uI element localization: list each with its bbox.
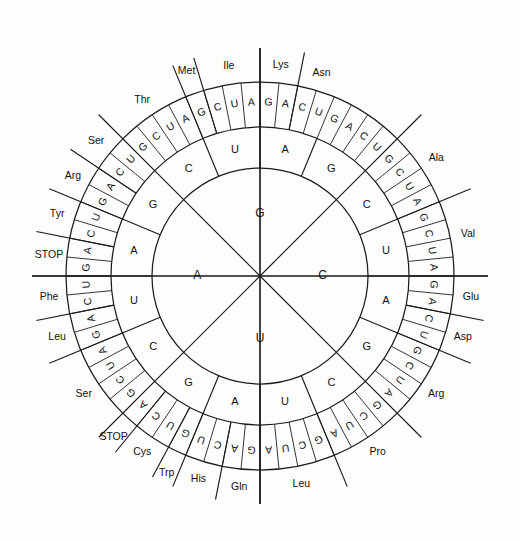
first-base-letter-c-1: C [318, 268, 327, 282]
second-base-letter-u-9: U [130, 294, 138, 306]
amino-acid-label-ile-21: Ile [223, 59, 234, 71]
amino-acid-divider-6 [317, 414, 347, 487]
amino-acid-label-arg-4: Arg [428, 387, 445, 399]
third-base-letter-a-31: A [136, 399, 149, 413]
third-base-letter-c-58: C [297, 100, 308, 114]
amino-acid-label-val-1: Val [461, 227, 475, 239]
third-base-letter-c-30: C [149, 409, 163, 423]
second-base-divider-13 [203, 138, 219, 176]
third-base-letter-u-18: U [343, 419, 356, 433]
third-base-letter-g-36: G [88, 329, 102, 341]
third-base-divider-25 [241, 424, 245, 469]
first-base-divider [184, 276, 260, 352]
third-base-letter-c-17: C [357, 409, 371, 423]
third-base-letter-a-51: A [180, 111, 191, 125]
third-base-letter-u-59: U [313, 105, 324, 119]
third-base-letter-g-28: G [179, 427, 192, 441]
third-base-letter-g-4: G [417, 211, 431, 223]
second-base-letter-u-5: U [281, 395, 289, 407]
second-base-letter-c-0: C [363, 198, 371, 210]
amino-acid-label-trp-9: Trp [159, 466, 175, 478]
third-base-letter-a-23: A [265, 444, 273, 456]
genetic-code-wheel-diagram: GCUA CUAGCUAGCUAGCUAG GCUAGCUAGACUGCUAGC… [0, 0, 520, 541]
third-base-divider-41 [67, 257, 112, 261]
second-base-divider-7 [203, 376, 219, 414]
amino-acid-divider-21 [194, 58, 217, 134]
third-base-letter-u-2: U [403, 180, 417, 193]
third-base-divider-57 [275, 83, 279, 128]
amino-acid-divider-20 [173, 65, 203, 138]
amino-acid-label-gln-7: Gln [231, 480, 248, 492]
third-base-letter-a-55: A [248, 95, 256, 107]
third-base-letter-u-50: U [164, 119, 177, 133]
amino-acid-divider-16 [36, 232, 113, 247]
third-base-letter-g-52: G [195, 104, 207, 118]
third-base-divider-54 [222, 86, 231, 130]
amino-acid-label-lys-22: Lys [273, 58, 289, 70]
third-base-letter-c-42: C [84, 228, 98, 239]
second-base-divider-12 [155, 171, 184, 200]
amino-acid-label-tyr-16: Tyr [50, 207, 65, 219]
second-base-divider-8 [155, 352, 184, 381]
amino-acid-label-his-8: His [191, 472, 206, 484]
third-base-divider-55 [241, 83, 245, 128]
third-base-letter-g-24: G [247, 444, 256, 456]
second-base-divider-0 [336, 171, 365, 200]
third-base-letter-u-22: U [281, 442, 290, 455]
third-base-letter-a-7: A [428, 264, 440, 272]
third-base-divider-39 [67, 291, 112, 295]
third-base-letter-a-9: A [426, 297, 439, 306]
second-base-letter-c-4: C [327, 376, 335, 388]
third-base-letter-c-38: C [81, 297, 94, 307]
amino-acid-label-arg-17: Arg [65, 169, 82, 181]
amino-acid-label-ala-0: Ala [429, 151, 444, 163]
amino-acid-label-stop-11: STOP [99, 430, 127, 442]
amino-acid-divider-23 [289, 52, 304, 129]
amino-acid-label-asp-3: Asp [454, 330, 472, 342]
third-base-letter-a-41: A [81, 246, 94, 255]
third-base-letter-u-54: U [230, 97, 239, 110]
second-base-letter-g-3: G [363, 340, 372, 352]
third-base-letter-c-62: C [357, 129, 371, 143]
third-base-letter-g-60: G [328, 111, 341, 125]
amino-acid-label-stop-15: STOP [35, 248, 63, 260]
second-base-divider-9 [122, 317, 160, 333]
third-base-letter-c-46: C [113, 165, 127, 179]
third-base-letter-c-21: C [297, 439, 308, 453]
second-base-divider-3 [360, 317, 398, 333]
third-base-letter-u-14: U [393, 373, 407, 386]
amino-acid-divider-5 [365, 381, 421, 437]
third-base-letter-u-11: U [418, 329, 432, 340]
third-base-letter-u-27: U [196, 434, 207, 448]
second-base-letter-c-12: C [185, 162, 193, 174]
third-base-letter-c-5: C [423, 228, 437, 239]
amino-acid-divider-1 [398, 189, 471, 219]
third-base-letter-a-19: A [329, 427, 340, 441]
third-base-letter-a-15: A [383, 387, 397, 400]
first-base-letter-u-2: U [256, 331, 265, 345]
first-base-divider [260, 276, 336, 352]
third-base-letter-a-45: A [103, 180, 117, 192]
third-base-divider-6 [406, 238, 450, 247]
second-base-letter-a-6: A [231, 395, 239, 407]
amino-acid-label-asn-23: Asn [312, 66, 330, 78]
third-base-letter-u-34: U [103, 359, 117, 372]
second-base-divider-5 [301, 376, 317, 414]
second-base-letter-a-10: A [130, 244, 138, 256]
second-base-letter-g-7: G [184, 376, 193, 388]
second-base-divider-4 [336, 352, 365, 381]
third-base-letter-g-8: G [428, 280, 440, 289]
amino-acid-label-thr-19: Thr [134, 93, 150, 105]
third-base-letter-a-57: A [281, 97, 290, 110]
third-base-divider-22 [289, 422, 298, 466]
second-base-divider-11 [122, 219, 160, 235]
third-base-letter-a-25: A [230, 442, 239, 455]
amino-acid-label-pro-5: Pro [370, 445, 387, 457]
third-base-letter-a-35: A [95, 345, 109, 356]
third-base-letter-u-39: U [79, 280, 91, 288]
amino-acid-divider-11 [115, 391, 165, 452]
amino-acid-label-glu-2: Glu [463, 290, 480, 302]
third-base-letter-c-33: C [112, 373, 126, 387]
third-base-letter-g-20: G [313, 433, 325, 447]
amino-acid-divider-14 [36, 305, 113, 320]
